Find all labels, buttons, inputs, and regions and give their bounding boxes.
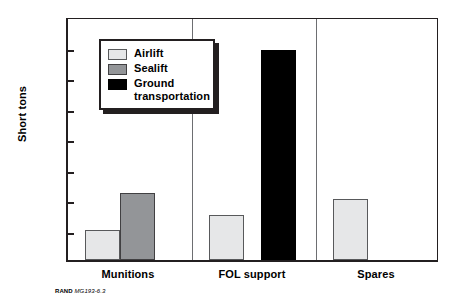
bar-fol-support-airlift [209, 215, 244, 260]
legend-item-ground-transportation: Ground transportation [108, 77, 206, 102]
chart-legend: Airlift Sealift Ground transportation [99, 39, 215, 110]
bar-fol-support-ground [261, 50, 296, 260]
legend-swatch-airlift-icon [108, 49, 127, 60]
y-tick-mark-35000 [68, 50, 74, 52]
bar-munitions-sealift [120, 193, 155, 260]
y-tick-mark-30000 [68, 80, 74, 82]
y-axis-title: Short tons [16, 54, 28, 174]
x-tick-label-munitions: Munitions [66, 268, 190, 280]
y-tick-mark-10000 [68, 202, 74, 204]
legend-swatch-sealift-icon [108, 64, 127, 75]
figure-caption: RAND MG193-6.3 [55, 288, 105, 294]
bar-munitions-airlift [85, 230, 120, 261]
legend-swatch-ground-transportation-icon [108, 79, 127, 90]
y-tick-mark-25000 [68, 111, 74, 113]
category-separator-2 [316, 19, 317, 260]
legend-item-sealift: Sealift [108, 62, 206, 75]
x-tick-label-fol-support: FOL support [190, 268, 314, 280]
y-tick-mark-20000 [68, 141, 74, 143]
bar-spares-airlift [333, 199, 368, 260]
x-tick-label-spares: Spares [314, 268, 438, 280]
caption-figure-id: MG193-6.3 [75, 288, 106, 294]
figure-container: Short tons 40,000 35,000 30,000 25,000 2… [0, 0, 449, 307]
y-tick-mark-15000 [68, 172, 74, 174]
y-tick-mark-5000 [68, 233, 74, 235]
legend-label-ground-transportation: Ground transportation [134, 77, 210, 102]
caption-source: RAND [55, 288, 73, 294]
legend-item-airlift: Airlift [108, 47, 206, 60]
legend-label-sealift: Sealift [134, 62, 168, 75]
legend-label-airlift: Airlift [134, 47, 163, 60]
